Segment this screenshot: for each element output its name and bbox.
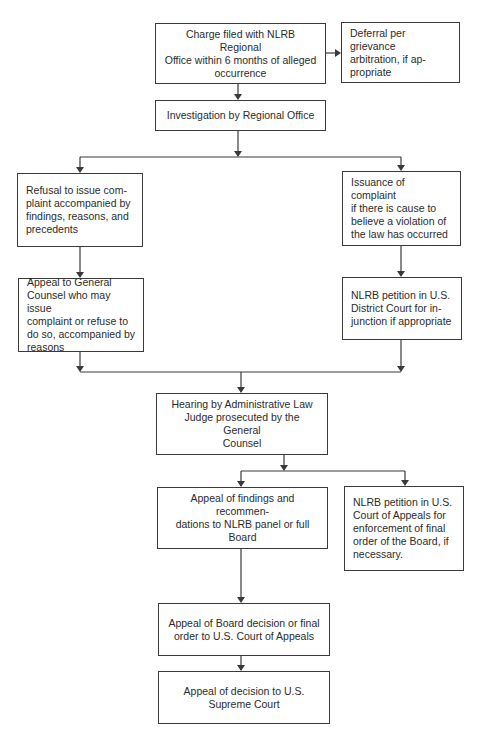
- node-charge-filed: Charge filed with NLRB Regional Office w…: [155, 23, 326, 84]
- node-supreme-court-appeal: Appeal of decision to U.S. Supreme Court: [158, 671, 330, 724]
- node-supreme-court-appeal-text: Appeal of decision to U.S. Supreme Court: [184, 685, 305, 711]
- node-charge-filed-text: Charge filed with NLRB Regional Office w…: [164, 28, 317, 80]
- node-deferral: Deferral per grievance arbitration, if a…: [341, 22, 460, 83]
- node-court-of-appeals-petition-text: NLRB petition in U.S. Court of Appeals f…: [353, 496, 452, 561]
- node-deferral-text: Deferral per grievance arbitration, if a…: [350, 27, 451, 79]
- node-issuance: Issuance of complaint if there is cause …: [342, 171, 461, 246]
- node-appeal-findings-text: Appeal of findings and recommen- dations…: [166, 492, 319, 544]
- node-district-court-petition-text: NLRB petition in U.S. District Court for…: [351, 289, 451, 328]
- node-appeal-general-counsel: Appeal to General Counsel who may issue …: [18, 278, 144, 352]
- nlrb-procedure-flowchart: Charge filed with NLRB Regional Office w…: [0, 0, 480, 735]
- node-appeal-general-counsel-text: Appeal to General Counsel who may issue …: [27, 276, 135, 354]
- node-appeal-findings: Appeal of findings and recommen- dations…: [157, 487, 328, 549]
- node-refusal-text: Refusal to issue com- plaint accompanied…: [26, 184, 130, 236]
- node-issuance-text: Issuance of complaint if there is cause …: [351, 176, 452, 241]
- node-investigation: Investigation by Regional Office: [155, 100, 326, 131]
- node-hearing-text: Hearing by Administrative Law Judge pros…: [165, 398, 319, 450]
- node-board-decision-appeal-text: Appeal of Board decision or final order …: [168, 617, 319, 643]
- node-refusal: Refusal to issue com- plaint accompanied…: [17, 173, 143, 247]
- node-court-of-appeals-petition: NLRB petition in U.S. Court of Appeals f…: [344, 486, 464, 571]
- node-hearing: Hearing by Administrative Law Judge pros…: [156, 393, 328, 455]
- node-district-court-petition: NLRB petition in U.S. District Court for…: [342, 277, 462, 340]
- node-investigation-text: Investigation by Regional Office: [167, 109, 314, 122]
- node-board-decision-appeal: Appeal of Board decision or final order …: [158, 603, 330, 656]
